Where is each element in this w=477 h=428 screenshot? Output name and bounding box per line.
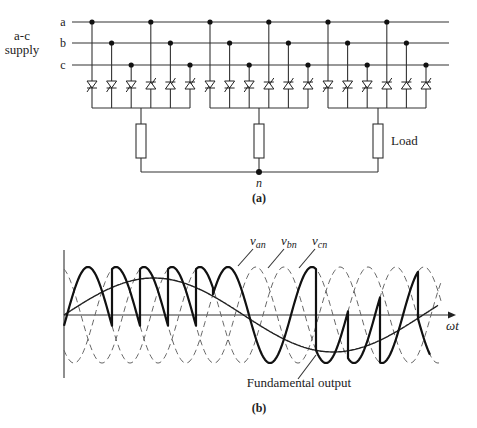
label-vbn: vbn [281, 233, 297, 250]
leader-vbn [268, 249, 284, 268]
x-axis-label: ωt [446, 318, 459, 333]
supply-label-line2: supply [5, 42, 40, 57]
label-vcn: vcn [312, 233, 327, 250]
leader-van [238, 249, 253, 266]
cycloconverter-figure: a-c supply a b c n Load (a) ωt van vbn v… [0, 0, 477, 428]
thyristor-banks [87, 19, 431, 172]
leader-vcn [299, 249, 315, 268]
waveform-plot: ωt van vbn vcn Fundamental output (b) [64, 233, 459, 415]
load-label: Load [391, 133, 418, 148]
caption-b: (b) [252, 401, 267, 415]
fundamental-label: Fundamental output [247, 375, 352, 390]
label-van: van [250, 233, 266, 250]
circuit-diagram: a-c supply a b c n Load (a) [5, 15, 449, 205]
phase-label-c: c [60, 58, 65, 72]
neutral-node [256, 169, 262, 175]
caption-a: (a) [252, 191, 266, 205]
phase-label-a: a [60, 15, 66, 29]
supply-label-line1: a-c [14, 28, 30, 43]
phase-label-b: b [60, 36, 66, 50]
neutral-label: n [256, 176, 262, 190]
